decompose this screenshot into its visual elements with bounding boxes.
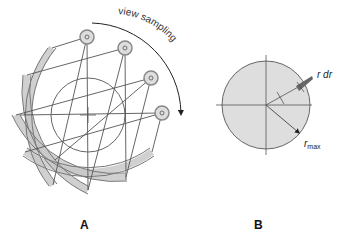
diagram-canvas: view sampling r dr rmax [0,0,341,239]
panel-label-a: A [80,218,89,232]
panel-label-b: B [254,218,263,232]
r-dr-label: r dr [317,69,333,80]
panel-a-diagram: view sampling [12,5,181,194]
r-max-label: rmax [304,138,321,150]
panel-b-diagram: r dr rmax [216,55,333,155]
view-sampling-label: view sampling [118,5,180,43]
